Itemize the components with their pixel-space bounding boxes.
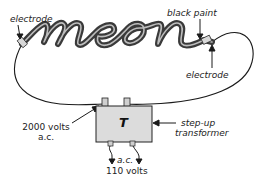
transformer-symbol: T [119, 115, 128, 130]
high-voltage-label: 2000 volts a.c. [17, 122, 75, 142]
neon-tube [22, 23, 212, 46]
input-type-label: a.c. [117, 155, 133, 165]
high-voltage-value: 2000 volts [17, 122, 75, 132]
high-voltage-type: a.c. [17, 132, 75, 142]
electrode-right-label: electrode [186, 70, 229, 80]
transformer-label-line2: transformer [175, 128, 229, 138]
neon-sign-diagram: electrode black paint electrode 2000 vol… [0, 0, 262, 182]
transformer-label: step-up transformer [175, 118, 229, 138]
left-wire [15, 44, 104, 105]
electrode-left-label: electrode [10, 14, 53, 24]
black-paint-label: black paint [167, 8, 217, 18]
transformer-label-line1: step-up [175, 118, 229, 128]
input-voltage-label: 110 volts [106, 166, 148, 176]
